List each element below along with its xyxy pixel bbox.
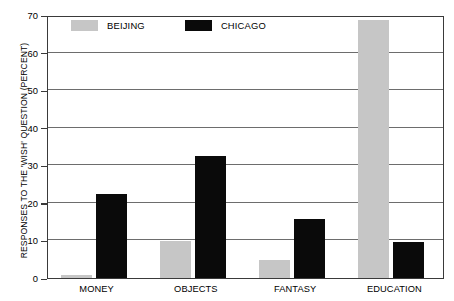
y-tick-label: 10 — [14, 236, 38, 246]
bar-chicago-education — [393, 242, 424, 278]
legend-label-beijing: BEIJING — [107, 20, 145, 31]
bar-beijing-objects — [160, 241, 191, 278]
y-tick-label: 70 — [14, 11, 38, 21]
legend-entry-beijing: BEIJING — [71, 20, 145, 31]
y-tick-label: 30 — [14, 161, 38, 171]
bar-beijing-education — [358, 20, 389, 278]
bar-chicago-money — [96, 194, 127, 278]
x-axis-label-education: EDUCATION — [345, 284, 444, 295]
y-tick-label: 60 — [14, 49, 38, 59]
bar-beijing-money — [61, 275, 92, 278]
y-tick-label: 20 — [14, 199, 38, 209]
chicago-swatch-icon — [185, 20, 212, 31]
y-tick-label: 0 — [14, 274, 38, 284]
y-tick-label: 50 — [14, 86, 38, 96]
legend-entry-chicago: CHICAGO — [185, 20, 266, 31]
x-axis-label-money: MONEY — [47, 284, 146, 295]
legend-label-chicago: CHICAGO — [221, 20, 266, 31]
legend: BEIJING CHICAGO — [71, 20, 266, 31]
bar-chicago-fantasy — [294, 219, 325, 278]
x-axis-label-fantasy: FANTASY — [246, 284, 345, 295]
bar-chicago-objects — [195, 156, 226, 278]
y-axis-title: RESPONSES TO THE 'WISH' QUESTION (PERCEN… — [16, 0, 32, 301]
beijing-swatch-icon — [71, 20, 98, 31]
plot-area — [47, 16, 444, 279]
y-tick-label: 40 — [14, 124, 38, 134]
x-axis-label-objects: OBJECTS — [146, 284, 245, 295]
bar-chart: RESPONSES TO THE 'WISH' QUESTION (PERCEN… — [0, 0, 454, 301]
bar-beijing-fantasy — [259, 260, 290, 278]
